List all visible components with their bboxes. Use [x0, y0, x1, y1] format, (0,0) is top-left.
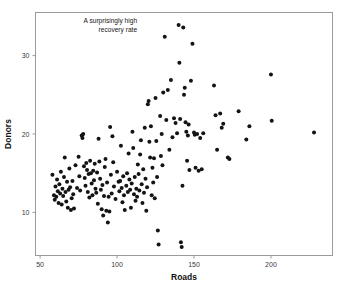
data-point [100, 207, 104, 211]
scatter-plot-figure: 50100150200102030RoadsDonorsA surprising… [0, 0, 341, 291]
data-point [158, 114, 162, 118]
data-point [133, 175, 137, 179]
annotation-line-2: recovery rate [99, 26, 138, 34]
data-point [147, 99, 151, 103]
data-point [127, 177, 131, 181]
data-point [120, 200, 124, 204]
x-tick-label: 200 [265, 261, 277, 268]
data-point [119, 144, 123, 148]
data-point [153, 196, 157, 200]
data-point [138, 152, 142, 156]
data-point [104, 157, 108, 161]
x-axis-title: Roads [171, 272, 197, 282]
data-point [182, 93, 186, 97]
data-point [141, 167, 145, 171]
data-point [70, 196, 74, 200]
data-point [98, 177, 102, 181]
data-point [92, 178, 96, 182]
data-point [54, 185, 58, 189]
data-point [179, 240, 183, 244]
data-point [101, 214, 105, 218]
data-point [180, 245, 184, 249]
data-point [152, 156, 156, 160]
data-point [147, 140, 151, 144]
annotation-line-1: A surprisingly high [84, 17, 138, 25]
data-point [151, 181, 155, 185]
data-point [85, 168, 89, 172]
data-point [139, 138, 143, 142]
data-point [107, 195, 111, 199]
x-tick-label: 100 [111, 261, 123, 268]
data-point [106, 221, 110, 225]
data-point [215, 148, 219, 152]
data-point [143, 126, 147, 130]
data-point [110, 192, 114, 196]
data-point [156, 228, 160, 232]
data-point [174, 121, 178, 125]
data-point-group [50, 23, 316, 249]
data-point [144, 209, 148, 213]
data-point [212, 83, 216, 87]
data-point [178, 117, 182, 121]
data-point [99, 188, 103, 192]
data-point [129, 206, 133, 210]
data-point [77, 174, 81, 178]
data-point [100, 183, 104, 187]
data-point [60, 187, 64, 191]
data-point [140, 182, 144, 186]
y-axis-title: Donors [3, 119, 13, 149]
data-point [189, 79, 193, 83]
data-point [269, 72, 273, 76]
data-point [127, 152, 131, 156]
data-point [185, 159, 189, 163]
data-point [108, 125, 112, 129]
data-point [59, 170, 63, 174]
data-point [91, 169, 95, 173]
data-point [221, 122, 225, 126]
y-tick-label: 30 [22, 52, 30, 59]
data-point [97, 137, 101, 141]
y-tick-label: 10 [22, 209, 30, 216]
data-point [130, 130, 134, 134]
data-point [270, 119, 274, 123]
data-point [181, 25, 185, 29]
data-point [72, 206, 76, 210]
data-point [54, 195, 58, 199]
data-point [97, 159, 101, 163]
data-point [107, 210, 111, 214]
data-point [200, 167, 204, 171]
data-point [134, 199, 138, 203]
data-point [214, 113, 218, 117]
data-point [55, 177, 59, 181]
y-tick-label: 20 [22, 131, 30, 138]
data-point [190, 42, 194, 46]
data-point [109, 173, 113, 177]
data-point [140, 201, 144, 205]
data-point [130, 181, 134, 185]
data-point [166, 88, 170, 92]
data-point [154, 139, 158, 143]
data-point [164, 118, 168, 122]
data-point [161, 90, 165, 94]
data-point [180, 184, 184, 188]
data-point [187, 123, 191, 127]
data-point [136, 163, 140, 167]
data-point [94, 187, 98, 191]
data-point [50, 173, 54, 177]
data-point [74, 163, 78, 167]
data-point [112, 185, 116, 189]
data-point [163, 35, 167, 39]
data-point [167, 148, 171, 152]
data-point [114, 197, 118, 201]
data-point [67, 166, 71, 170]
data-point [64, 199, 68, 203]
data-point [124, 184, 128, 188]
data-point [194, 166, 198, 170]
data-point [81, 132, 85, 136]
data-point [150, 166, 154, 170]
data-point [80, 136, 84, 140]
data-point [78, 188, 82, 192]
data-point [111, 160, 115, 164]
data-point [105, 181, 109, 185]
data-point [157, 243, 161, 247]
